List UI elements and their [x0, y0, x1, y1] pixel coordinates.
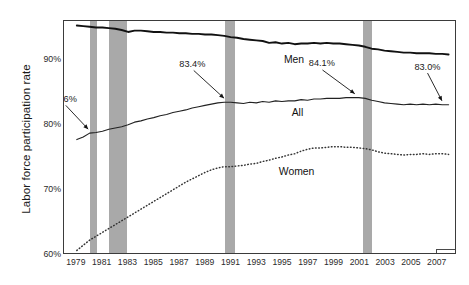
y-tick-90: 90%: [35, 54, 61, 64]
annotation-830: 83.0%: [414, 62, 440, 72]
annotation-arrow-head: [350, 89, 355, 94]
y-tick-80: 80%: [35, 119, 61, 129]
annotation-841: 84.1%: [309, 58, 335, 68]
legend: Recessions: [436, 249, 456, 254]
y-axis-tick-labels: 90%80%70%60%: [33, 0, 61, 285]
annotation-arrow-line: [66, 105, 88, 129]
annotation-834: 83.4%: [179, 59, 205, 69]
annotation-arrows: [64, 21, 455, 253]
recession-swatch-icon: [441, 253, 450, 255]
annotation-786: 78.6%: [63, 94, 77, 104]
series-label-all: All: [292, 107, 304, 118]
series-label-men: Men: [284, 54, 304, 65]
y-tick-70: 70%: [35, 184, 61, 194]
plot-area: 78.6%83.4%84.1%83.0% MenAllWomen Recessi…: [63, 20, 456, 254]
annotation-arrow-line: [322, 70, 354, 94]
y-axis-title: Labor force participation rate: [20, 19, 32, 259]
legend-label-recessions: Recessions: [454, 252, 456, 254]
annotation-arrow-line: [194, 70, 224, 98]
x-axis-tick-labels: 1979198119831985198719891991199319951997…: [0, 257, 469, 273]
x-tick-2007: 2007: [422, 257, 452, 267]
series-label-women: Women: [279, 166, 315, 177]
chart-figure: Labor force participation rate 90%80%70%…: [0, 0, 469, 285]
